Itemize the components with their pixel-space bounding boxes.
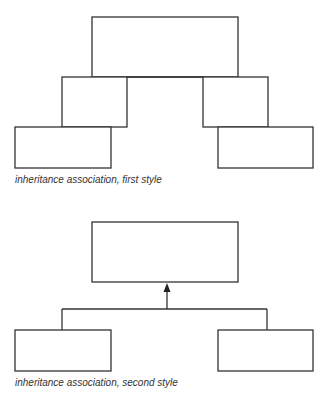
child-right-class-box-2 — [218, 330, 313, 371]
parent-class-box-2 — [92, 222, 238, 282]
grandchild-right-class-box — [218, 127, 313, 168]
child-left-class-box — [62, 77, 127, 127]
grandchild-left-class-box — [15, 127, 111, 168]
child-left-class-box-2 — [15, 330, 111, 371]
inheritance-arrow-icon — [164, 283, 171, 292]
child-right-class-box — [203, 77, 268, 127]
diagram-canvas — [0, 0, 334, 403]
diagram-second-style — [15, 222, 313, 371]
diagram-first-style — [15, 17, 313, 168]
caption-first-style: inheritance association, first style — [15, 174, 162, 185]
parent-class-box — [92, 17, 238, 77]
caption-second-style: inheritance association, second style — [15, 377, 178, 388]
